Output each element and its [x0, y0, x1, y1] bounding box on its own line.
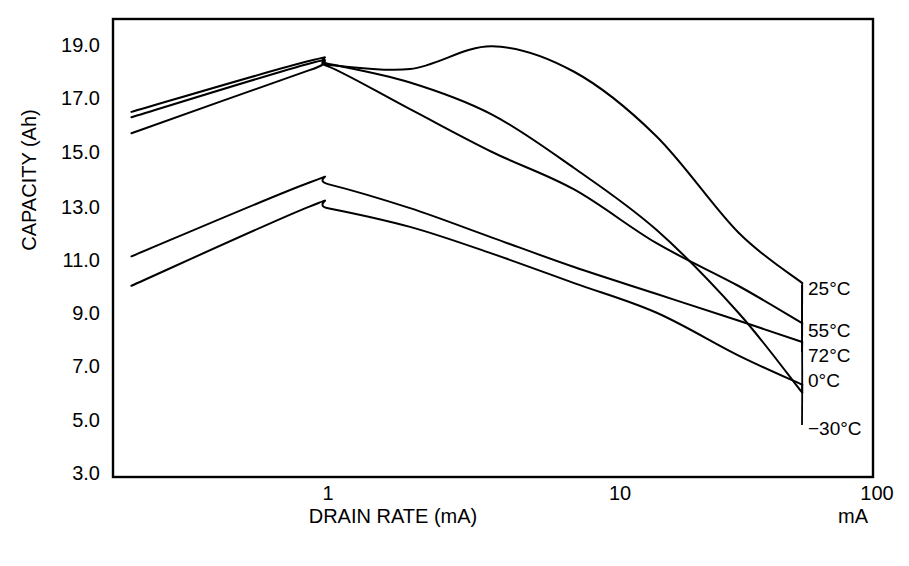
x-axis-title: DRAIN RATE (mA) [113, 505, 673, 528]
plot-canvas [0, 0, 909, 566]
series-label-m30c: −30°C [808, 418, 862, 440]
series-label-0c: 0°C [808, 370, 840, 392]
series-lines [131, 46, 802, 392]
capacity-vs-drain-rate-chart: 19.0 17.0 15.0 13.0 11.0 9.0 7.0 5.0 3.0… [0, 0, 909, 566]
x-tick-label-1: 1 [322, 482, 333, 505]
x-tick-label-10: 10 [609, 482, 631, 505]
series-label-55c: 55°C [808, 320, 850, 342]
series-line-25c [131, 57, 802, 392]
x-tick-label-100: 100 [860, 482, 893, 505]
y-axis-title: CAPACITY (Ah) [18, 0, 41, 410]
y-tick-label-5: 5.0 [10, 409, 100, 432]
x-axis-unit-note: mA [838, 505, 868, 528]
series-label-25c: 25°C [808, 278, 850, 300]
y-tick-label-3: 3.0 [10, 462, 100, 485]
series-line-72c [131, 62, 802, 324]
series-label-72c: 72°C [808, 345, 850, 367]
series-line-0c [131, 177, 802, 342]
